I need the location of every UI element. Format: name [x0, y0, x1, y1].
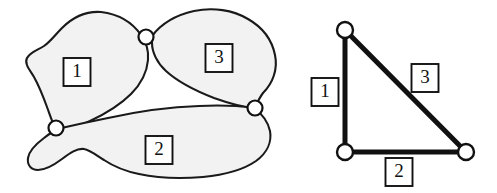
- junction-2-3-node: [248, 101, 263, 116]
- graph-node-bottom-right: [458, 144, 474, 160]
- region-map-group: 1 2 3: [26, 9, 276, 178]
- region-1-label: 1: [64, 58, 91, 86]
- graph-edge-2-label-text: 2: [394, 160, 404, 181]
- graph-node-top: [337, 22, 353, 38]
- graph-node-bottom-left: [337, 144, 353, 160]
- figure-root: 1 2 3: [0, 0, 497, 193]
- region-3-label: 3: [206, 44, 233, 72]
- region-2-label: 2: [146, 136, 173, 164]
- graph-edge-2-label: 2: [386, 158, 413, 186]
- junction-1-2-node: [49, 121, 64, 136]
- graph-edge-3-label-text: 3: [420, 66, 430, 87]
- figure-canvas: 1 2 3: [0, 0, 497, 193]
- region-3-label-text: 3: [214, 46, 224, 67]
- graph-edge-3: [345, 30, 466, 152]
- junction-1-3-node: [139, 30, 154, 45]
- graph-edge-3-label: 3: [412, 64, 439, 92]
- region-2-label-text: 2: [154, 138, 164, 159]
- graph-edge-1-label-text: 1: [320, 80, 330, 101]
- graph-edge-1-label: 1: [312, 78, 339, 106]
- adjacency-graph-group: 1 2 3: [312, 22, 475, 186]
- region-1-label-text: 1: [72, 60, 82, 81]
